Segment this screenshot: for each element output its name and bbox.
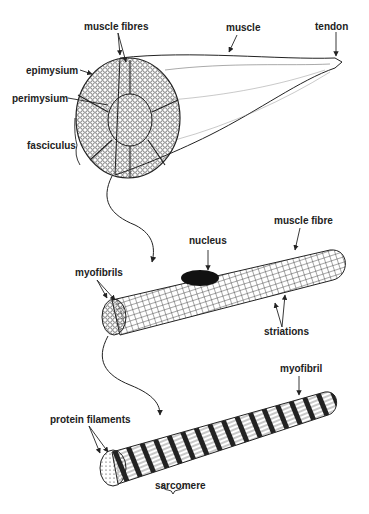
label-myofibril: myofibril: [280, 364, 322, 374]
label-muscle-fibre: muscle fibre: [274, 216, 333, 226]
label-fasciculus: fasciculus: [27, 141, 76, 151]
label-tendon: tendon: [315, 22, 348, 32]
label-myofibrils: myofibrils: [75, 268, 123, 278]
label-protein-filaments: protein filaments: [50, 415, 131, 425]
zoom-connector-1: [107, 176, 154, 262]
label-striations: striations: [264, 327, 309, 337]
zoom-connector-2: [102, 336, 160, 415]
diagram-artwork: [0, 0, 369, 514]
label-epimysium: epimysium: [26, 66, 78, 76]
label-nucleus: nucleus: [189, 236, 227, 246]
label-muscle: muscle: [226, 23, 260, 33]
muscle-fibre-panel: [102, 250, 345, 335]
muscle-panel: [76, 55, 342, 178]
muscle-structure-diagram: muscle fibres muscle tendon epimysium pe…: [0, 0, 369, 514]
label-perimysium: perimysium: [12, 94, 68, 104]
label-muscle-fibres: muscle fibres: [84, 22, 148, 32]
label-sarcomere: sarcomere: [155, 481, 206, 491]
myofibril-panel: [100, 392, 337, 494]
